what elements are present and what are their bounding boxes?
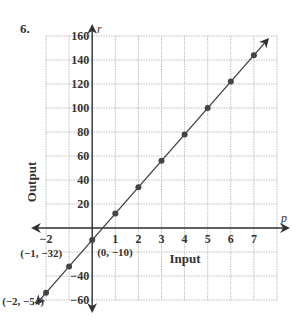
y-tick-label: 120	[71, 77, 89, 91]
y-tick-label: 100	[71, 101, 89, 115]
data-point	[135, 184, 141, 190]
annotations: (−1, −32)(−2, −54)(0, −10)	[2, 246, 133, 308]
data-point	[205, 105, 211, 111]
point-annotation: (−2, −54)	[2, 295, 44, 308]
x-axis-title: Input	[169, 251, 201, 266]
grid	[46, 36, 277, 300]
data-point	[182, 131, 188, 137]
x-tick-label: 2	[135, 232, 141, 246]
chart: 6. −2123456716014012010080604020−40−60 (…	[0, 0, 303, 329]
data-point	[228, 79, 234, 85]
y-tick-label: −40	[70, 269, 89, 283]
x-tick-label: 1	[112, 232, 118, 246]
y-tick-label: 40	[77, 173, 89, 187]
point-annotation: (0, −10)	[97, 246, 133, 259]
y-tick-label: 140	[71, 53, 89, 67]
x-variable-label: p	[280, 211, 287, 225]
data-point	[251, 52, 257, 58]
x-tick-label: 7	[251, 232, 257, 246]
y-tick-label: 60	[77, 149, 89, 163]
data-point	[112, 211, 118, 217]
data-point	[159, 158, 165, 164]
data-point	[89, 237, 95, 243]
y-tick-label: 20	[77, 197, 89, 211]
x-tick-label: 4	[182, 232, 188, 246]
tick-labels: −2123456716014012010080604020−40−60	[40, 29, 257, 307]
y-tick-label: 80	[77, 125, 89, 139]
y-variable-label: r	[97, 22, 102, 36]
x-tick-label: 3	[159, 232, 165, 246]
x-tick-label: −2	[40, 232, 53, 246]
x-tick-label: 5	[205, 232, 211, 246]
point-annotation: (−1, −32)	[20, 247, 62, 260]
y-tick-label: −60	[70, 293, 89, 307]
x-tick-label: 6	[228, 232, 234, 246]
y-tick-label: 160	[71, 29, 89, 43]
y-axis-title: Output	[24, 161, 39, 202]
data-point	[66, 263, 72, 269]
problem-number: 6.	[20, 21, 30, 36]
